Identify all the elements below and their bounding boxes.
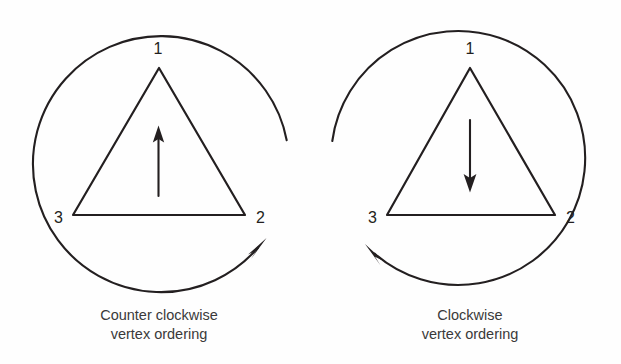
- vertex-label-1: 1: [154, 40, 163, 57]
- panel-clockwise: 1 2 3 Clockwise vertex ordering: [332, 31, 585, 342]
- vertex-label-3: 3: [54, 209, 63, 226]
- rotation-arrowhead-clockwise: [365, 244, 384, 265]
- normal-arrow-down: [464, 120, 477, 193]
- caption-line-1: Clockwise: [437, 307, 502, 323]
- vertex-label-3: 3: [368, 209, 377, 226]
- rotation-arc-clockwise: [332, 31, 585, 285]
- caption-line-1: Counter clockwise: [100, 307, 218, 323]
- vertex-label-2: 2: [256, 209, 265, 226]
- vertex-label-2: 2: [566, 209, 575, 226]
- vertex-label-1: 1: [466, 40, 475, 57]
- figure-canvas: 1 2 3 Counter clockwise vertex ordering …: [0, 0, 621, 364]
- figure-vertex-ordering: 1 2 3 Counter clockwise vertex ordering …: [0, 0, 621, 364]
- rotation-arc-counter-clockwise: [33, 36, 287, 292]
- caption-line-2: vertex ordering: [422, 326, 519, 342]
- panel-counter-clockwise: 1 2 3 Counter clockwise vertex ordering: [33, 36, 287, 342]
- caption-line-2: vertex ordering: [111, 326, 208, 342]
- normal-arrow-up: [153, 126, 164, 197]
